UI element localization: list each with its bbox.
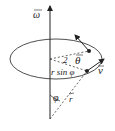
omega-label: ω: [33, 9, 40, 20]
rotation-diagram: ω 2 θ v r sin φ φ r: [0, 0, 115, 131]
velocity-arrow-1: [75, 35, 89, 51]
r-label: r: [69, 94, 73, 104]
phi-label: φ: [53, 92, 59, 103]
theta-label: θ: [75, 54, 81, 66]
two-label: 2: [63, 55, 68, 65]
rsinphi-label: r sin φ: [51, 67, 75, 77]
radius-dashed-1: [50, 51, 89, 59]
diagram-canvas: ω 2 θ v r sin φ φ r: [0, 0, 115, 131]
